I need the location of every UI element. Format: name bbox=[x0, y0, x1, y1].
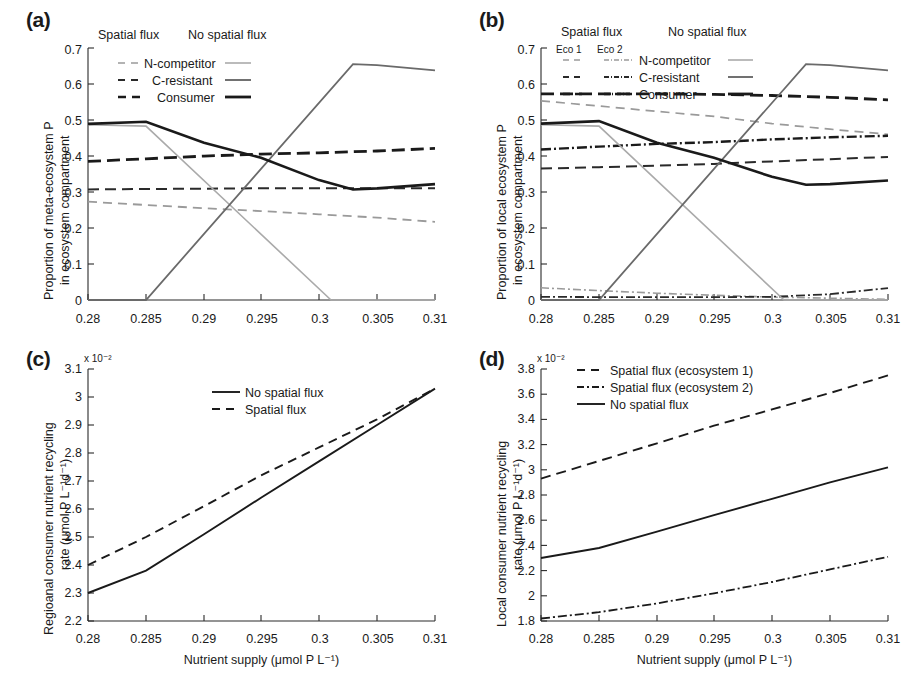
panel-a-legend-samples bbox=[118, 63, 251, 97]
series-b-ncomp-eco1 bbox=[541, 101, 888, 134]
panel-b-plot bbox=[453, 0, 906, 345]
series-a-ncomp-flux bbox=[88, 202, 435, 222]
series-a-cres-noflux bbox=[88, 64, 435, 300]
series-b-cres-noflux bbox=[541, 64, 888, 300]
series-d-flux-eco1 bbox=[541, 375, 888, 478]
panel-b: (b) Proportion of local ecosystem P in e… bbox=[453, 0, 906, 345]
panel-a: (a) Proportion of meta-ecosystem P in ec… bbox=[0, 0, 453, 345]
panel-c-plot bbox=[0, 345, 453, 691]
series-d-no-flux bbox=[541, 467, 888, 558]
series-c-flux bbox=[88, 389, 435, 565]
series-b-consumer-eco2 bbox=[541, 136, 888, 150]
panel-a-plot bbox=[0, 0, 453, 345]
series-a-consumer-flux bbox=[88, 148, 435, 161]
panel-b-legend-samples bbox=[563, 60, 753, 94]
panel-d: (d) x 10⁻² Local consumer nutrient recyc… bbox=[453, 345, 906, 691]
panel-c-legend-samples bbox=[212, 392, 240, 409]
series-c-no-flux bbox=[88, 389, 435, 593]
series-d-flux-eco2 bbox=[541, 557, 888, 619]
series-b-consumer-eco1 bbox=[541, 94, 888, 100]
series-a-consumer-noflux bbox=[88, 122, 435, 190]
series-b-consumer-noflux bbox=[541, 121, 888, 185]
panel-c: (c) x 10⁻² Regioanal consumer nutrient r… bbox=[0, 345, 453, 691]
series-b-ncomp-noflux bbox=[541, 125, 888, 300]
panel-d-legend-samples bbox=[577, 370, 605, 404]
panel-d-plot bbox=[453, 345, 906, 691]
